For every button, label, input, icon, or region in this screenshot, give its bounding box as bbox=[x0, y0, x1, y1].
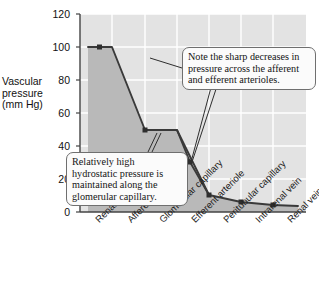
callout-glomerular-capillary: Relatively high hydrostatic pressure is … bbox=[66, 152, 188, 206]
vascular-pressure-figure: Vascular pressure (mm Hg) 120 100 80 60 … bbox=[0, 0, 319, 296]
y-tick-120: 120 bbox=[44, 8, 70, 20]
y-tick-40: 40 bbox=[44, 140, 70, 152]
y-tick-80: 80 bbox=[44, 74, 70, 86]
marker-renal-artery bbox=[97, 45, 102, 50]
y-tick-100: 100 bbox=[44, 41, 70, 53]
callout-afferent-efferent: Note the sharp decreases in pressure acr… bbox=[182, 47, 316, 90]
marker-glomerular-capillary bbox=[143, 128, 148, 133]
y-tick-0: 0 bbox=[44, 206, 70, 218]
y-tick-60: 60 bbox=[44, 107, 70, 119]
